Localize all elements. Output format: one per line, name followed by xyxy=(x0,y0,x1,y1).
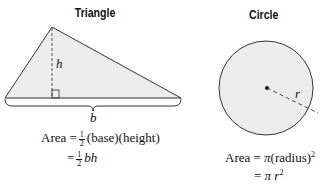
radius-label: r xyxy=(295,86,300,102)
circle-area-formula-line1: Area = π(radius)2 xyxy=(225,150,315,166)
triangle-title: Triangle xyxy=(75,6,115,20)
triangle-shape xyxy=(5,27,181,98)
circle-title: Circle xyxy=(249,8,278,22)
height-label: h xyxy=(56,56,63,72)
triangle-area-formula-line1: Area =12(base)(height) xyxy=(41,130,160,148)
triangle-area-formula-line2: =12bh xyxy=(67,150,97,168)
base-label: b xyxy=(90,110,97,126)
fraction-one-half: 12 xyxy=(79,131,85,148)
circle-area-formula-line2: = π r2 xyxy=(254,168,283,184)
fraction-one-half: 12 xyxy=(76,151,82,168)
